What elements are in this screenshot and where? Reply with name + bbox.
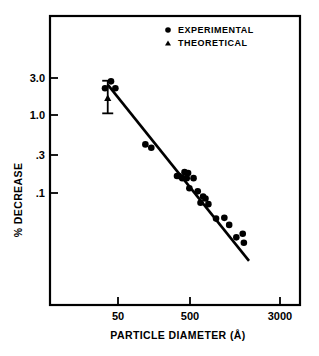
data-point-experimental xyxy=(233,234,240,241)
legend-label-experimental: EXPERIMENTAL xyxy=(178,25,254,35)
x-axis-ticks xyxy=(118,297,280,305)
y-tick-label-0.1: .1 xyxy=(36,187,45,199)
y-tick-label-1.0: 1.0 xyxy=(30,109,45,121)
data-point-experimental xyxy=(108,78,115,85)
data-point-experimental xyxy=(194,188,201,195)
y-axis-ticks xyxy=(50,78,58,193)
y-tick-label-3.0: 3.0 xyxy=(30,72,45,84)
data-point-experimental xyxy=(239,230,246,237)
y-tick-label-0.3: .3 xyxy=(36,149,45,161)
x-tick-label-3000: 3000 xyxy=(268,310,292,322)
data-point-experimental xyxy=(186,185,193,192)
data-point-experimental xyxy=(112,85,119,92)
data-point-experimental xyxy=(221,215,228,222)
legend-circle-marker-icon xyxy=(165,27,171,33)
legend: EXPERIMENTAL THEORETICAL xyxy=(165,25,254,48)
x-tick-label-500: 500 xyxy=(181,310,199,322)
data-point-experimental xyxy=(148,144,155,151)
legend-label-theoretical: THEORETICAL xyxy=(178,38,248,48)
data-point-experimental xyxy=(102,85,109,92)
data-point-experimental xyxy=(202,195,209,202)
plot-frame xyxy=(50,16,300,305)
scatter-plot-figure: 3.0 1.0 .3 .1 % DECREASE 50 500 3000 PAR… xyxy=(0,0,319,356)
data-point-experimental xyxy=(205,201,212,208)
data-point-experimental xyxy=(213,215,220,222)
data-point-experimental xyxy=(142,141,149,148)
legend-triangle-marker-icon xyxy=(165,40,171,45)
data-point-experimental xyxy=(185,170,192,177)
data-point-experimental xyxy=(226,222,233,229)
x-axis-title: PARTICLE DIAMETER (Å) xyxy=(110,329,245,341)
data-point-experimental xyxy=(190,175,197,182)
data-point-experimental xyxy=(241,239,248,246)
y-axis-title: % DECREASE xyxy=(12,163,24,238)
best-fit-line xyxy=(108,85,249,261)
x-tick-label-50: 50 xyxy=(112,310,124,322)
data-point-theoretical xyxy=(104,94,111,101)
